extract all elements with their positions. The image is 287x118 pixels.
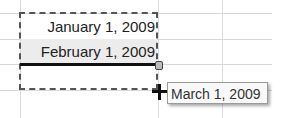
fill-handle[interactable] <box>155 61 163 70</box>
autofill-tooltip: March 1, 2009 <box>167 82 268 104</box>
selection-border <box>20 63 158 66</box>
crosshair-cursor-icon <box>152 84 168 100</box>
selection-marquee <box>19 12 158 90</box>
gridline <box>158 0 159 118</box>
